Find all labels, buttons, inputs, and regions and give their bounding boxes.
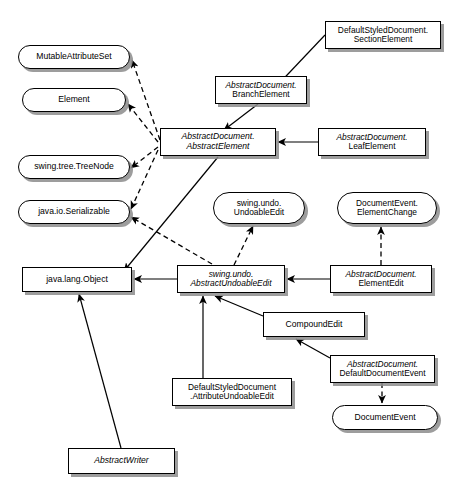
node-document-event-element-change: DocumentEvent. ElementChange [337, 192, 437, 224]
node-label: AbstractDocument.ElementEdit [341, 270, 420, 289]
node-label: CompoundEdit [282, 320, 347, 330]
node-label: swing.undo. UndoableEdit [230, 199, 288, 218]
edge-abstract-document-branch-element-to-abstract-document-abstract-element [224, 104, 258, 130]
edge-compound-edit-to-swing-undo-abstract-undoable-edit [215, 296, 263, 316]
node-label: MutableAttributeSet [32, 52, 115, 62]
edge-abstract-document-default-document-event-to-compound-edit [296, 339, 330, 358]
node-swing-tree-treenode: swing.tree.TreeNode [18, 155, 130, 179]
node-swing-undo-abstract-undoable-edit: swing.undo. AbstractUndoableEdit [177, 265, 285, 293]
node-abstract-document-leaf-element: AbstractDocument.LeafElement [318, 128, 426, 156]
node-compound-edit: CompoundEdit [263, 312, 365, 337]
node-java-io-serializable: java.io.Serializable [18, 200, 130, 224]
node-mutable-attribute-set: MutableAttributeSet [18, 45, 130, 69]
node-label: AbstractDocument.LeafElement [332, 133, 411, 152]
node-document-event: DocumentEvent [332, 405, 438, 430]
node-label: AbstractDocument.BranchElement [221, 81, 300, 100]
node-label: DefaultStyledDocument. SectionElement [334, 26, 432, 45]
node-java-lang-object: java.lang.Object [22, 267, 132, 292]
node-element: Element [22, 88, 126, 112]
node-swing-undo-undoable-edit: swing.undo. UndoableEdit [213, 192, 305, 224]
edge-abstract-document-abstract-element-to-java-io-serializable [131, 150, 158, 209]
node-default-styled-document-attribute-undoable-edit: DefaultStyledDocument .AttributeUndoable… [172, 378, 292, 406]
node-label: java.io.Serializable [34, 207, 114, 217]
node-label: DefaultStyledDocument .AttributeUndoable… [184, 383, 280, 402]
node-abstract-writer: AbstractWriter [68, 448, 175, 474]
node-abstract-document-element-edit: AbstractDocument.ElementEdit [330, 265, 432, 293]
edge-abstract-document-abstract-element-to-mutable-attribute-set [132, 60, 160, 140]
node-label: DocumentEvent [350, 413, 419, 423]
node-label: AbstractWriter [90, 456, 152, 466]
node-label: AbstractDocument. AbstractElement [177, 132, 258, 151]
edge-abstract-writer-to-java-lang-object [79, 294, 121, 448]
node-default-styled-document-section-element: DefaultStyledDocument. SectionElement [325, 21, 441, 49]
edge-abstract-document-abstract-element-to-java-lang-object [124, 157, 218, 271]
node-label: java.lang.Object [42, 275, 112, 285]
node-abstract-document-branch-element: AbstractDocument.BranchElement [215, 76, 307, 104]
node-label: AbstractDocument.DefaultDocumentEvent [335, 360, 429, 379]
node-label: Element [54, 95, 94, 105]
edge-swing-undo-abstract-undoable-edit-to-swing-undo-undoable-edit [234, 226, 253, 265]
node-label: DocumentEvent. ElementChange [352, 199, 422, 218]
edge-swing-undo-abstract-undoable-edit-to-java-io-serializable [131, 217, 212, 264]
node-abstract-document-abstract-element: AbstractDocument. AbstractElement [160, 128, 276, 156]
node-label: swing.undo. AbstractUndoableEdit [186, 270, 275, 289]
node-label: swing.tree.TreeNode [30, 162, 117, 172]
uml-class-diagram: MutableAttributeSetElementswing.tree.Tre… [0, 0, 464, 503]
node-abstract-document-default-document-event: AbstractDocument.DefaultDocumentEvent [330, 355, 435, 383]
